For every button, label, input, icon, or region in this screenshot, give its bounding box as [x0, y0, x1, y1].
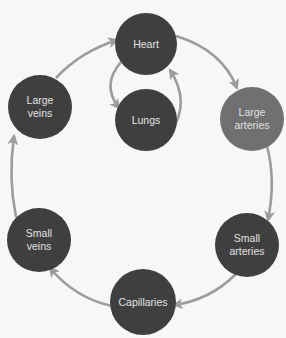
node-large-arteries: Large arteries — [220, 87, 284, 151]
node-large-veins-label-line2: veins — [28, 107, 53, 119]
node-heart: Heart — [115, 13, 177, 75]
node-lungs-label: Lungs — [132, 114, 161, 126]
node-large-arteries-label-line2: arteries — [234, 119, 269, 131]
node-large-arteries-label-line1: Large — [239, 106, 266, 118]
node-heart-label: Heart — [133, 38, 159, 50]
node-capillaries-label: Capillaries — [118, 296, 167, 308]
arrow-capillaries-to-small-veins — [50, 268, 112, 306]
node-large-veins: Large veins — [8, 75, 72, 139]
node-small-arteries: Small arteries — [215, 213, 279, 277]
node-small-veins-label-line2: veins — [27, 240, 52, 252]
node-small-veins-label-line1: Small — [26, 227, 52, 239]
arrow-large-veins-to-heart — [56, 40, 117, 78]
circulation-diagram: Heart Lungs Large arteries Small arterie… — [0, 0, 286, 338]
node-small-arteries-label-line1: Small — [234, 232, 260, 244]
arrow-heart-to-lungs — [110, 62, 121, 108]
arrow-small-arteries-to-capillaries — [174, 274, 236, 305]
node-small-veins: Small veins — [7, 208, 71, 272]
arrow-large-arteries-to-small-arteries — [267, 146, 272, 220]
arrow-small-veins-to-large-veins — [11, 136, 16, 217]
arrow-heart-to-large-arteries — [176, 36, 237, 88]
node-lungs: Lungs — [115, 89, 177, 151]
node-small-arteries-label-line2: arteries — [229, 245, 264, 257]
node-large-veins-label-line1: Large — [27, 94, 54, 106]
node-capillaries: Capillaries — [110, 269, 176, 335]
